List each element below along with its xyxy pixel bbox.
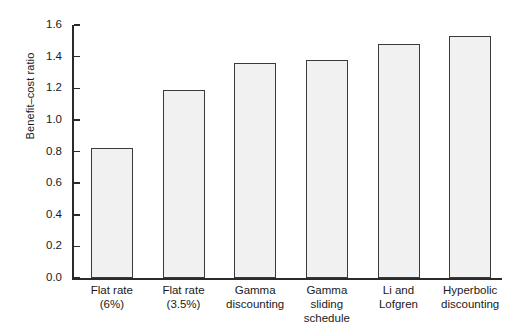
x-tick-label-line: (6%) <box>76 297 148 311</box>
x-tick-label-line: Flat rate <box>148 283 220 297</box>
bar <box>163 90 205 278</box>
bar-chart: Benefit–cost ratio 1.61.41.21.00.80.60.4… <box>0 0 518 334</box>
y-tick-label: 0.0 <box>46 272 62 284</box>
x-tick-label: Flat rate(3.5%) <box>148 283 220 311</box>
y-tick-label: 1.4 <box>46 51 62 63</box>
y-tick-label: 1.6 <box>46 19 62 31</box>
y-tick-label: 1.2 <box>46 83 62 95</box>
x-tick-label-line: schedule <box>291 311 363 325</box>
x-tick-label: Gammadiscounting <box>219 283 291 311</box>
bar <box>234 63 276 278</box>
x-tick-label-line: sliding <box>291 297 363 311</box>
y-tick-label: 0.2 <box>46 241 62 253</box>
plot-area: 1.61.41.21.00.80.60.40.20.0 <box>72 20 502 278</box>
y-tick-label: 0.8 <box>46 146 62 158</box>
x-tick-label: Hyperbolicdiscounting <box>434 283 506 311</box>
x-tick-label-line: Hyperbolic <box>434 283 506 297</box>
y-tick-label: 1.0 <box>46 114 62 126</box>
bar <box>449 36 491 278</box>
y-tick-label: 0.6 <box>46 177 62 189</box>
bar <box>91 148 133 278</box>
y-tick-label: 0.4 <box>46 209 62 221</box>
x-tick-label: Flat rate(6%) <box>76 283 148 311</box>
x-tick-label-line: Gamma <box>291 283 363 297</box>
x-tick-label-line: Li and <box>363 283 435 297</box>
bars-group <box>72 20 502 279</box>
bar <box>306 60 348 278</box>
x-axis-labels: Flat rate(6%)Flat rate(3.5%)Gammadiscoun… <box>72 283 502 333</box>
x-tick-label: Gammaslidingschedule <box>291 283 363 325</box>
x-tick-label-line: Gamma <box>219 283 291 297</box>
x-tick-label: Li andLofgren <box>363 283 435 311</box>
x-tick-label-line: discounting <box>434 297 506 311</box>
bar <box>378 44 420 278</box>
y-axis-title: Benefit–cost ratio <box>24 16 36 176</box>
x-tick-label-line: Lofgren <box>363 297 435 311</box>
x-tick-label-line: discounting <box>219 297 291 311</box>
x-tick-label-line: (3.5%) <box>148 297 220 311</box>
x-tick-label-line: Flat rate <box>76 283 148 297</box>
